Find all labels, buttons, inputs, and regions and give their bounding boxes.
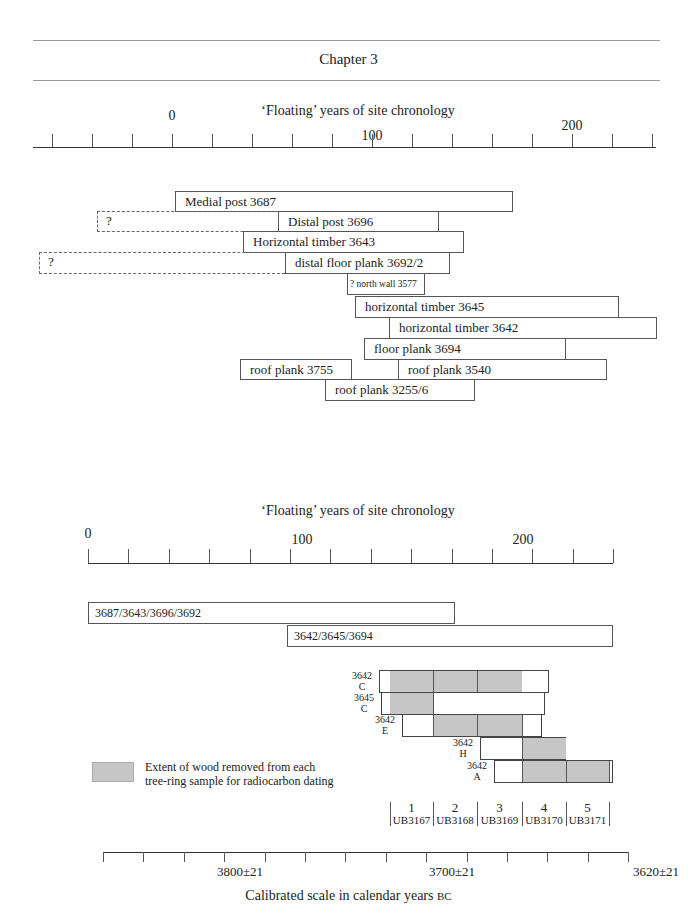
axis-tick: [613, 549, 614, 563]
axis-tick: [532, 134, 533, 147]
calibrated-tick-label: 3700±21: [429, 864, 475, 880]
calibrated-tick: [265, 852, 266, 862]
sample-timber: 3642: [347, 670, 377, 681]
axis-tick: [452, 549, 453, 563]
sample-bar: [480, 737, 566, 760]
block-divider: [566, 761, 567, 782]
axis-tick: [492, 134, 493, 147]
calibrated-tick: [184, 852, 185, 862]
run-lab-code: UB3171: [566, 814, 609, 826]
bottom-axis-line: [88, 563, 613, 564]
timber-bar: horizontal timber 3642: [389, 317, 657, 339]
bottom-axis-title: ‘Floating’ years of site chronology: [261, 503, 454, 519]
radiocarbon-extent: [390, 671, 522, 692]
top-axis-title: ‘Floating’ years of site chronology: [261, 103, 454, 119]
calibrated-tick-label: 3800±21: [217, 864, 263, 880]
calibrated-tick: [224, 852, 225, 862]
top-axis-line: [33, 147, 656, 148]
radiocarbon-extent: [522, 738, 566, 759]
timber-bar: Horizontal timber 3643: [243, 231, 464, 253]
axis-tick: [452, 134, 453, 147]
sample-timber: 3642: [462, 760, 492, 771]
sample-label: 3642H: [448, 737, 478, 759]
timber-bar: horizontal timber 3645: [355, 296, 619, 318]
axis-tick: [252, 134, 253, 147]
run-lab-code: UB3168: [433, 814, 477, 826]
timber-bar: roof plank 3540: [398, 359, 607, 380]
axis-tick: [330, 549, 331, 563]
axis-tick: [371, 549, 372, 563]
header-rule-top: [33, 40, 660, 41]
radiocarbon-extent: [390, 693, 433, 714]
header-rule-bottom: [33, 80, 660, 81]
sample-label: 3642A: [462, 760, 492, 782]
sample-letter: E: [370, 725, 400, 736]
calibrated-tick: [467, 852, 468, 862]
run-lab-code: UB3169: [477, 814, 522, 826]
sample-bar: [402, 714, 542, 737]
run-number: 2: [433, 802, 477, 814]
calibrated-tick: [143, 852, 144, 862]
axis-tick: [92, 134, 93, 147]
bottom-tick-label: 100: [292, 532, 313, 548]
axis-tick: [332, 134, 333, 147]
calibrated-tick-label: 3620±21: [633, 864, 679, 880]
axis-tick: [128, 549, 129, 563]
sample-label: 3642E: [370, 714, 400, 736]
sample-label: 3642C: [347, 670, 377, 692]
sample-label: 3645C: [349, 692, 379, 714]
axis-tick: [572, 134, 573, 147]
sample-timber: 3642: [370, 714, 400, 725]
axis-tick: [52, 134, 53, 147]
axis-tick: [172, 134, 173, 147]
axis-tick: [532, 549, 533, 563]
run-number: 4: [522, 802, 566, 814]
sample-bar: [494, 760, 613, 783]
axis-tick: [492, 549, 493, 563]
axis-tick: [412, 134, 413, 147]
block-divider: [477, 715, 478, 736]
calibrated-axis-bc: BC: [437, 890, 452, 902]
block-divider: [609, 761, 610, 782]
calibrated-tick: [386, 852, 387, 862]
calibrated-axis-title-text: Calibrated scale in calendar years: [245, 888, 433, 903]
bottom-tick-label: 200: [513, 532, 534, 548]
timber-bar: roof plank 3255/6: [325, 379, 475, 401]
block-divider: [522, 761, 523, 782]
axis-tick: [132, 134, 133, 147]
calibrated-axis-line: [103, 852, 628, 853]
run-number: 1: [390, 802, 433, 814]
axis-tick: [292, 134, 293, 147]
sample-timber: 3642: [448, 737, 478, 748]
axis-tick: [212, 134, 213, 147]
sample-bar: [381, 692, 545, 715]
timber-bar: Distal post 3696: [278, 211, 439, 232]
composite-chronology-bar: 3642/3645/3694: [287, 625, 613, 647]
block-divider: [433, 715, 434, 736]
calibrated-tick: [588, 852, 589, 862]
timber-bar: floor plank 3694: [364, 338, 566, 360]
uncertain-extent: ?: [39, 252, 285, 274]
sample-letter: C: [349, 703, 379, 714]
calibrated-tick: [507, 852, 508, 862]
axis-tick: [652, 134, 653, 147]
axis-tick: [250, 549, 251, 563]
timber-bar: roof plank 3755: [240, 359, 352, 380]
top-tick-label: 200: [562, 118, 583, 134]
run-separator: [609, 802, 610, 826]
sample-bar: [379, 670, 549, 693]
sample-letter: A: [462, 771, 492, 782]
axis-tick: [290, 549, 291, 563]
top-tick-label: 0: [169, 108, 176, 124]
block-divider: [433, 671, 434, 692]
composite-chronology-bar: 3687/3643/3696/3692: [88, 602, 455, 624]
calibrated-tick: [426, 852, 427, 862]
radiocarbon-run: 5UB3171: [566, 802, 609, 826]
uncertain-extent: ?: [97, 211, 278, 232]
chapter-title: Chapter 3: [0, 51, 697, 68]
bottom-tick-label: 0: [85, 526, 92, 542]
calibrated-tick: [305, 852, 306, 862]
legend-line-2: tree-ring sample for radiocarbon dating: [145, 774, 334, 788]
axis-tick: [411, 549, 412, 563]
sample-timber: 3645: [349, 692, 379, 703]
